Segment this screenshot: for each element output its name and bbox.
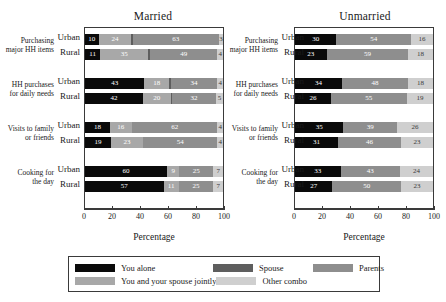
bar-urban[interactable]: 1816624 <box>85 122 223 133</box>
bar-segment: 3 <box>219 34 223 45</box>
bar-segment: 49 <box>150 49 218 60</box>
x-axis-tick-label: 40 <box>346 212 354 221</box>
x-axis-tick <box>140 206 141 210</box>
x-axis-tick-label: 60 <box>374 212 382 221</box>
bar-rural[interactable]: 1923544 <box>85 137 223 148</box>
legend-swatch-you-alone <box>75 264 115 272</box>
legend-row-top: You alone Spouse Parents <box>75 261 373 274</box>
bar-rural[interactable]: 5711257 <box>85 181 223 192</box>
bar-value-label: 23 <box>124 139 131 146</box>
bar-segment: 24 <box>400 166 433 177</box>
bar-value-label: 7 <box>216 168 220 175</box>
bar-urban[interactable]: 1024633 <box>85 34 223 45</box>
plot-area-unmarried: 3054162359183448182655193539263146233343… <box>294 27 434 209</box>
bar-rural[interactable]: 4220325 <box>85 93 223 104</box>
bar-value-label: 18 <box>417 51 424 58</box>
x-axis-tick-label: 20 <box>318 212 326 221</box>
bar-segment: 11 <box>85 49 100 60</box>
bar-urban[interactable]: 609257 <box>85 166 223 177</box>
bar-value-label: 23 <box>414 183 421 190</box>
bar-group: 18166241923544 <box>85 122 223 150</box>
x-axis-tick <box>196 206 197 210</box>
x-axis-tick <box>406 206 407 210</box>
bar-value-label: 54 <box>370 36 377 43</box>
bar-segment: 23 <box>401 137 433 148</box>
x-axis-tick <box>168 206 169 210</box>
category-label-u2: Visits to family or friends <box>226 124 278 142</box>
bar-value-label: 4 <box>218 80 222 87</box>
bar-urban[interactable]: 353926 <box>295 122 433 133</box>
bar-value-label: 50 <box>363 183 370 190</box>
category-label-3-line2: the day <box>0 177 54 186</box>
bar-segment: 16 <box>110 122 132 133</box>
legend-item-you-alone: You alone <box>75 261 213 274</box>
bar-group: 353926314623 <box>295 122 433 150</box>
bar-rural[interactable]: 1135494 <box>85 49 223 60</box>
bar-rural[interactable]: 275023 <box>295 181 433 192</box>
x-axis-tick <box>434 206 435 210</box>
bar-value-label: 18 <box>94 124 101 131</box>
bar-value-label: 7 <box>216 183 220 190</box>
legend-swatch-other-combo <box>216 277 256 285</box>
bar-segment: 23 <box>111 137 143 148</box>
legend-swatch-parents <box>313 264 353 272</box>
bar-rural[interactable]: 235918 <box>295 49 433 60</box>
x-axis-tick <box>112 206 113 210</box>
bar-segment: 19 <box>85 137 111 148</box>
bar-urban[interactable]: 334324 <box>295 166 433 177</box>
bar-value-label: 48 <box>372 80 379 87</box>
bar-segment: 39 <box>343 122 397 133</box>
row-label-urban: Urban <box>278 120 304 131</box>
bar-value-label: 63 <box>172 36 179 43</box>
bar-segment: 18 <box>144 78 169 89</box>
bar-value-label: 27 <box>310 183 317 190</box>
bar-segment: 54 <box>143 137 218 148</box>
legend-label-spouse: Spouse <box>259 263 284 273</box>
bar-value-label: 18 <box>417 80 424 87</box>
row-label-rural: Rural <box>54 135 80 146</box>
x-axis-title-unmarried: Percentage <box>294 232 434 242</box>
bar-value-label: 16 <box>418 36 425 43</box>
legend-item-spouse: Spouse <box>213 261 313 274</box>
bar-value-label: 34 <box>315 80 322 87</box>
stacked-bar-chart-figure: Married Purchasing major HH items HH pur… <box>0 0 446 302</box>
x-axis-tick <box>224 206 225 210</box>
row-label-rural: Rural <box>278 135 304 146</box>
legend-label-you-alone: You alone <box>121 263 155 273</box>
panel-title-married: Married <box>0 10 232 22</box>
category-label-0-line1: Purchasing <box>0 36 54 45</box>
bar-value-label: 34 <box>190 80 197 87</box>
bar-urban[interactable]: 4318344 <box>85 78 223 89</box>
row-label-urban: Urban <box>54 76 80 87</box>
bar-segment: 4 <box>217 137 223 148</box>
bar-segment: 24 <box>99 34 132 45</box>
bar-value-label: 42 <box>110 95 117 102</box>
bar-value-label: 33 <box>314 168 321 175</box>
row-label-rural: Rural <box>278 47 304 58</box>
bar-rural[interactable]: 265519 <box>295 93 433 104</box>
bar-segment: 4 <box>217 78 223 89</box>
category-label-u0: Purchasing major HH items <box>226 36 278 54</box>
bar-segment: 35 <box>100 49 148 60</box>
category-label-u1-line1: HH purchases <box>226 80 278 89</box>
bar-value-label: 11 <box>168 183 175 190</box>
bar-urban[interactable]: 305416 <box>295 34 433 45</box>
panel-title-unmarried: Unmarried <box>232 10 446 22</box>
x-axis-tick <box>322 206 323 210</box>
plot-area-married: 1024633113549443183444220325181662419235… <box>84 27 224 209</box>
bar-value-label: 20 <box>153 95 160 102</box>
bar-segment: 43 <box>341 166 400 177</box>
bar-segment: 4 <box>217 49 223 60</box>
row-label-rural: Rural <box>54 91 80 102</box>
bar-group: 43183444220325 <box>85 78 223 106</box>
bar-value-label: 24 <box>413 168 420 175</box>
bar-segment: 48 <box>342 78 408 89</box>
bar-segment: 57 <box>85 181 164 192</box>
bar-urban[interactable]: 344818 <box>295 78 433 89</box>
bar-group: 334324275023 <box>295 166 433 194</box>
row-label-rural: Rural <box>278 179 304 190</box>
row-label-rural: Rural <box>54 47 80 58</box>
bar-segment: 62 <box>132 122 218 133</box>
bar-group: 10246331135494 <box>85 34 223 62</box>
bar-rural[interactable]: 314623 <box>295 137 433 148</box>
